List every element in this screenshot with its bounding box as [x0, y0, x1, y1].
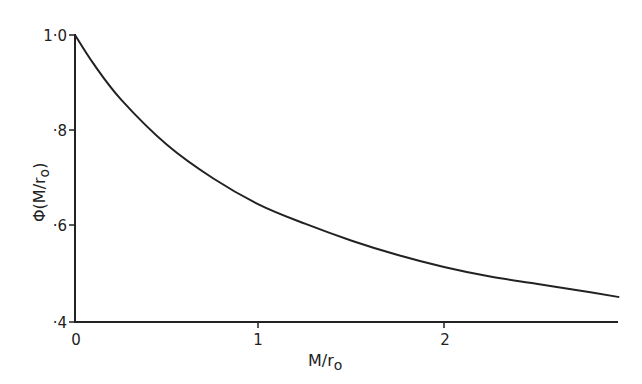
y-tick-0-4: ·4 — [53, 314, 67, 332]
x-ticks: 0 1 2 — [71, 322, 450, 349]
x-tick-2: 2 — [440, 331, 450, 349]
y-tick-0-8: ·8 — [53, 122, 67, 140]
y-tick-1-0: 1·0 — [43, 27, 67, 45]
x-tick-1: 1 — [253, 331, 263, 349]
x-tick-0: 0 — [71, 331, 81, 349]
chart: 1·0 ·8 ·6 ·4 0 1 2 M/ro Φ(M/ro) — [0, 0, 642, 384]
y-axis-title: Φ(M/ro) — [30, 163, 52, 222]
y-tick-0-6: ·6 — [53, 217, 67, 235]
phi-curve — [75, 35, 619, 297]
x-axis-title: M/ro — [308, 351, 342, 373]
